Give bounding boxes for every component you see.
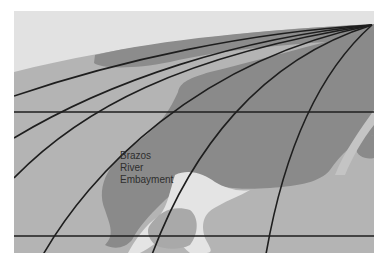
brazos-river-embayment-label: Brazos River Embayment bbox=[120, 150, 173, 186]
label-line-3: Embayment bbox=[120, 174, 173, 186]
label-line-2: River bbox=[120, 162, 173, 174]
map-canvas bbox=[0, 0, 384, 275]
label-line-1: Brazos bbox=[120, 150, 173, 162]
